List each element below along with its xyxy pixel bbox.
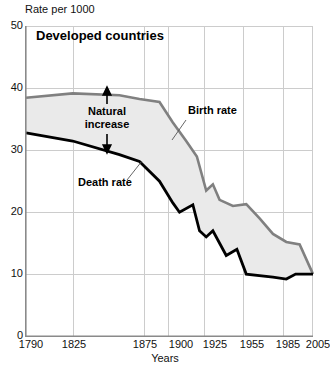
x-tick-1790: 1790: [19, 338, 43, 350]
x-axis-title: Years: [0, 352, 330, 364]
natural-increase-band: [26, 93, 313, 279]
death-rate-annotation: Death rate: [78, 176, 132, 189]
x-tick-1875: 1875: [133, 338, 157, 350]
natural-increase-line-2: increase: [85, 118, 130, 131]
x-tick-1900: 1900: [169, 338, 193, 350]
population-transition-chart: Rate per 1000 50 40 30 20 10 0: [0, 0, 330, 369]
chart-title: Developed countries: [36, 28, 164, 43]
x-tick-2005: 2005: [306, 338, 330, 350]
natural-increase-annotation: Natural increase: [85, 105, 130, 131]
plot-area: [0, 0, 330, 369]
natural-increase-line-1: Natural: [85, 105, 130, 118]
x-tick-1985: 1985: [276, 338, 300, 350]
birth-rate-annotation: Birth rate: [188, 104, 237, 117]
x-tick-1955: 1955: [240, 338, 264, 350]
x-tick-1925: 1925: [203, 338, 227, 350]
x-tick-1825: 1825: [62, 338, 86, 350]
